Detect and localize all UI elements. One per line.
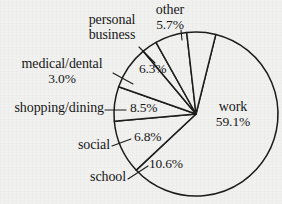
label-medical-dental: medical/dental 3.0% bbox=[12, 57, 112, 86]
label-social: social bbox=[40, 138, 110, 153]
pie-chart: personal business other 5.7% medical/den… bbox=[0, 0, 282, 204]
label-personal-business: personal business bbox=[78, 13, 146, 42]
slice-pct-personal-business: 6.3% bbox=[139, 61, 166, 77]
label-other-name: other bbox=[146, 3, 194, 18]
label-other: other 5.7% bbox=[146, 3, 194, 32]
label-work-pct: 59.1% bbox=[203, 115, 263, 129]
label-medical-dental-name: medical/dental bbox=[12, 57, 112, 72]
label-other-pct: 5.7% bbox=[146, 18, 194, 32]
label-social-name: social bbox=[40, 138, 110, 153]
label-medical-dental-pct: 3.0% bbox=[12, 72, 112, 86]
slice-pct-social: 6.8% bbox=[134, 129, 161, 145]
label-shopping-dining: shopping/dining bbox=[2, 101, 104, 116]
label-work: work 59.1% bbox=[203, 100, 263, 129]
label-work-name: work bbox=[203, 100, 263, 115]
label-shopping-dining-name: shopping/dining bbox=[2, 101, 104, 116]
label-school-name: school bbox=[54, 170, 126, 185]
label-school: school bbox=[54, 170, 126, 185]
label-personal-business-line2: business bbox=[78, 28, 146, 43]
slice-pct-school: 10.6% bbox=[149, 156, 183, 172]
label-personal-business-line1: personal bbox=[78, 13, 146, 28]
slice-pct-shopping-dining: 8.5% bbox=[130, 100, 157, 116]
